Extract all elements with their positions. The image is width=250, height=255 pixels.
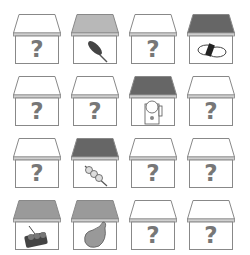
house-card[interactable]: ? [129,200,177,250]
question-mark-icon: ? [187,160,235,186]
question-mark-icon: ? [129,222,177,248]
house-card[interactable] [71,200,119,250]
house-shape [13,200,61,250]
question-mark-icon: ? [13,98,61,124]
house-card[interactable] [71,14,119,64]
house-card[interactable] [13,200,61,250]
house-card[interactable]: ? [13,76,61,126]
house-card[interactable]: ? [129,14,177,64]
question-mark-icon: ? [13,36,61,62]
house-shape [129,76,177,126]
question-mark-icon: ? [129,160,177,186]
house-shape [71,200,119,250]
house-card[interactable]: ? [129,138,177,188]
house-shape [187,14,235,64]
house-card[interactable]: ? [187,76,235,126]
question-mark-icon: ? [187,98,235,124]
question-mark-icon: ? [129,36,177,62]
house-card[interactable]: ? [13,14,61,64]
memory-board: ? ? [0,0,250,255]
house-card[interactable] [129,76,177,126]
question-mark-icon: ? [187,222,235,248]
house-card[interactable] [71,138,119,188]
house-card[interactable]: ? [13,138,61,188]
house-shape [71,138,119,188]
question-mark-icon: ? [13,160,61,186]
question-mark-icon: ? [71,98,119,124]
house-shape [71,14,119,64]
house-card[interactable]: ? [187,200,235,250]
house-card[interactable]: ? [71,76,119,126]
house-card[interactable] [187,14,235,64]
house-card[interactable]: ? [187,138,235,188]
